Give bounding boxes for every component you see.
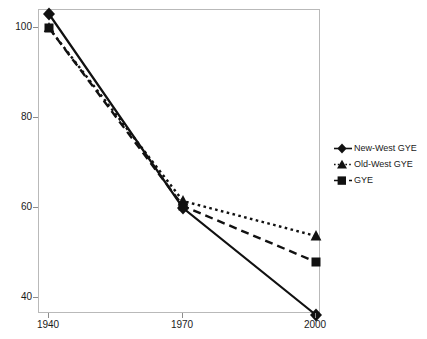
x-tick-label-2000: 2000: [292, 320, 338, 330]
legend-label-new-west-gye: New-West GYE: [354, 143, 417, 154]
x-tick-label-1940: 1940: [25, 320, 71, 330]
legend-label-gye: GYE: [354, 175, 373, 186]
legend-label-old-west-gye: Old-West GYE: [354, 159, 413, 170]
legend-glyph-square-dashed-icon: [334, 174, 352, 187]
x-tick-mark-1940: [48, 313, 49, 318]
legend-item-gye: GYE: [334, 174, 427, 187]
chart-figure: 100 80 60 40: [0, 0, 427, 339]
x-tick-mark-1970: [182, 313, 183, 318]
chart-legend: New-West GYE Old-West GYE GYE: [334, 142, 427, 190]
legend-item-new-west-gye: New-West GYE: [334, 142, 427, 155]
legend-glyph-diamond-solid-icon: [334, 142, 352, 155]
legend-item-old-west-gye: Old-West GYE: [334, 158, 427, 171]
legend-glyph-triangle-dotted-icon: [334, 158, 352, 171]
x-tick-label-1970: 1970: [159, 320, 205, 330]
x-tick-mark-2000: [315, 313, 316, 318]
